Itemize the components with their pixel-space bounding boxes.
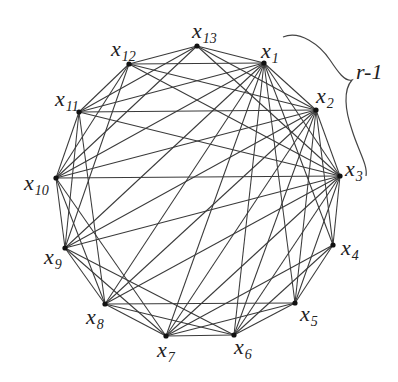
edge-x2-x12 <box>129 64 316 110</box>
edge-x8-x11 <box>79 112 105 304</box>
vertex-x5 <box>292 300 297 305</box>
vertex-x4 <box>330 242 335 247</box>
edge-x5-x8 <box>105 303 295 304</box>
edges-layer <box>56 46 340 336</box>
edge-x2-x11 <box>79 110 316 112</box>
edge-x3-x10 <box>56 176 340 178</box>
vertex-x8 <box>102 301 107 306</box>
vertex-x3 <box>337 173 342 178</box>
vertex-label-x2: x2 <box>315 83 334 111</box>
vertex-label-x3: x3 <box>344 156 363 184</box>
edge-x2-x4 <box>316 110 333 245</box>
vertex-label-x8: x8 <box>85 304 104 332</box>
edge-x1-x12 <box>129 63 264 64</box>
edge-x2-x10 <box>56 110 316 178</box>
nodes-layer <box>53 43 342 338</box>
vertex-label-x13: x13 <box>191 18 217 46</box>
edge-x4-x6 <box>234 245 333 335</box>
edge-x6-x7 <box>166 335 234 336</box>
edge-x2-x3 <box>316 110 340 176</box>
vertex-label-x6: x6 <box>233 334 252 362</box>
vertex-label-x12: x12 <box>110 36 136 64</box>
vertex-label-x5: x5 <box>299 301 318 329</box>
vertex-x9 <box>62 245 67 250</box>
vertex-label-x7: x7 <box>156 337 176 365</box>
edge-x3-x8 <box>105 176 340 304</box>
vertex-label-x4: x4 <box>340 235 359 263</box>
edge-x2-x8 <box>105 110 316 304</box>
edge-x8-x10 <box>56 178 105 304</box>
vertex-label-x9: x9 <box>43 244 62 272</box>
vertex-x10 <box>53 175 58 180</box>
edge-x5-x7 <box>166 303 295 336</box>
vertex-label-x1: x1 <box>260 38 279 66</box>
vertex-label-x11: x11 <box>54 86 79 114</box>
brace-label: r-1 <box>356 59 382 84</box>
graph-diagram: x1x2x3x4x5x6x7x8x9x10x11x12x13 r-1 <box>0 0 398 382</box>
edge-x1-x3 <box>264 63 340 176</box>
edge-x10-x12 <box>56 64 129 178</box>
vertex-x2 <box>313 107 318 112</box>
vertex-x13 <box>194 43 199 48</box>
edge-x11-x13 <box>79 46 197 112</box>
vertex-label-x10: x10 <box>23 170 49 198</box>
